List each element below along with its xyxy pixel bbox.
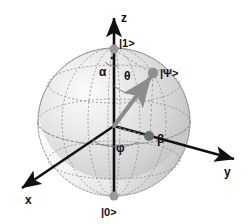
state-vector-label: |Ψ> [160, 67, 178, 79]
south-pole-marker [109, 191, 118, 200]
state-point-marker [148, 68, 158, 78]
y-axis-label: y [224, 165, 231, 179]
theta-angle-label: θ [124, 69, 131, 83]
z-axis-label: z [121, 11, 127, 25]
x-axis-label: x [25, 193, 32, 207]
phi-angle-label: φ [116, 141, 125, 155]
bloch-sphere-svg: z y x |1> |0> |Ψ> α θ φ β [0, 0, 249, 224]
north-pole-marker [109, 44, 118, 53]
alpha-angle-label: α [99, 65, 107, 79]
projection-point-marker [144, 131, 154, 141]
south-pole-label: |0> [101, 206, 117, 218]
beta-projection-label: β [157, 132, 164, 146]
alpha-vertex-dot [111, 57, 114, 60]
bloch-sphere-figure: z y x |1> |0> |Ψ> α θ φ β [0, 0, 249, 224]
north-pole-label: |1> [119, 37, 135, 49]
